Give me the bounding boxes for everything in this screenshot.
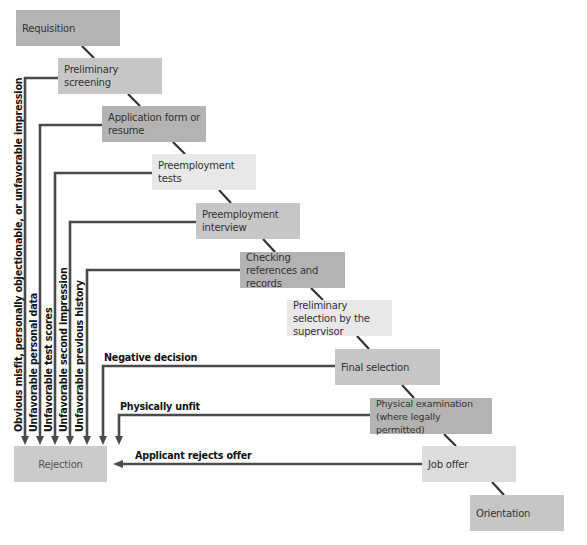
step-physical-examination: Physical examination (where legally perm… bbox=[370, 398, 492, 434]
step-label: Preliminary selection by the supervisor bbox=[293, 299, 386, 338]
reason-personal-data: Unfavorable personal data bbox=[28, 293, 39, 432]
reason-test-scores: Unfavorable test scores bbox=[43, 308, 54, 432]
step-label: Preemployment tests bbox=[158, 159, 250, 185]
step-preemployment-tests: Preemployment tests bbox=[152, 154, 256, 190]
step-label: Final selection bbox=[341, 361, 409, 374]
step-label: Preliminary screening bbox=[64, 63, 156, 89]
step-orientation: Orientation bbox=[470, 495, 564, 531]
step-preemployment-interview: Preemployment interview bbox=[196, 203, 300, 239]
reason-obvious-misfit: Obvious misfit, personally objectionable… bbox=[13, 78, 24, 432]
step-label: Job offer bbox=[428, 458, 468, 471]
step-label: Orientation bbox=[476, 507, 530, 520]
step-checking-references: Checking references and records bbox=[240, 252, 345, 288]
step-label: Preemployment interview bbox=[202, 208, 294, 234]
step-preliminary-screening: Preliminary screening bbox=[58, 58, 162, 94]
rejection-label: Rejection bbox=[38, 458, 82, 471]
step-application-form: Application form or resume bbox=[102, 106, 206, 142]
step-requisition: Requisition bbox=[16, 10, 120, 46]
step-label: Checking references and records bbox=[246, 251, 339, 290]
reason-previous-history: Unfavorable previous history bbox=[74, 280, 85, 432]
rejection-box: Rejection bbox=[14, 446, 107, 482]
reason-negative-decision: Negative decision bbox=[104, 352, 197, 363]
step-preliminary-selection: Preliminary selection by the supervisor bbox=[287, 300, 392, 336]
step-label: Physical examination (where legally perm… bbox=[376, 397, 486, 436]
step-label: Application form or resume bbox=[108, 111, 200, 137]
step-final-selection: Final selection bbox=[335, 349, 440, 385]
reason-physically-unfit: Physically unfit bbox=[120, 401, 200, 412]
step-job-offer: Job offer bbox=[422, 446, 516, 482]
reason-applicant-rejects-offer: Applicant rejects offer bbox=[135, 450, 252, 461]
reason-second-impression: Unfavorable second impression bbox=[58, 267, 69, 432]
step-label: Requisition bbox=[22, 22, 75, 35]
